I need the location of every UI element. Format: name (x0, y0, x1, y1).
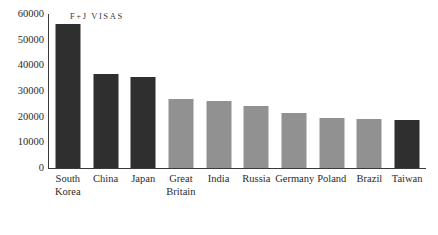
y-axis-tick-label: 10000 (0, 137, 44, 147)
bar[interactable] (319, 118, 344, 168)
y-axis: 6000050000400003000020000100000 (0, 0, 44, 235)
x-axis-tick-label: GreatBritain (162, 172, 200, 198)
bar[interactable] (55, 24, 80, 168)
y-axis-tick-label: 40000 (0, 60, 44, 70)
x-axis-tick-label-line: Korea (49, 185, 87, 198)
bar[interactable] (168, 99, 193, 168)
bar[interactable] (244, 106, 269, 168)
x-axis-tick-label-line: Brazil (351, 172, 389, 185)
bar[interactable] (282, 113, 307, 168)
bar-slot (351, 14, 389, 168)
bar-slot (124, 14, 162, 168)
x-axis-tick-label-line: India (200, 172, 238, 185)
bar-slot (200, 14, 238, 168)
plot-area (49, 14, 426, 168)
x-axis-line (48, 168, 426, 169)
x-axis-tick-label-line: Japan (124, 172, 162, 185)
bar-slot (49, 14, 87, 168)
y-axis-tick-label: 60000 (0, 9, 44, 19)
x-axis-tick-label: India (200, 172, 238, 185)
x-axis-tick-label-line: Taiwan (388, 172, 426, 185)
bar[interactable] (93, 74, 118, 168)
bar-slot (388, 14, 426, 168)
bar[interactable] (206, 101, 231, 168)
x-axis-tick-label: Poland (313, 172, 351, 185)
bar-slot (162, 14, 200, 168)
x-axis-tick-label-line: South (49, 172, 87, 185)
x-axis: SouthKoreaChinaJapanGreatBritainIndiaRus… (49, 172, 426, 222)
x-axis-tick-label-line: Great (162, 172, 200, 185)
x-axis-tick-label-line: Russia (238, 172, 276, 185)
x-axis-tick-label: Germany (275, 172, 313, 185)
bar-slot (313, 14, 351, 168)
bar-slot (87, 14, 125, 168)
x-axis-tick-label-line: Germany (275, 172, 313, 185)
x-axis-tick-label-line: Britain (162, 185, 200, 198)
x-axis-tick-label-line: Poland (313, 172, 351, 185)
bar[interactable] (357, 119, 382, 168)
bar-slot (275, 14, 313, 168)
y-axis-tick-label: 50000 (0, 35, 44, 45)
x-axis-tick-label: China (87, 172, 125, 185)
x-axis-tick-label: Russia (238, 172, 276, 185)
bar[interactable] (395, 120, 420, 168)
y-axis-tick-label: 0 (0, 163, 44, 173)
x-axis-tick-label: Taiwan (388, 172, 426, 185)
x-axis-tick-label: SouthKorea (49, 172, 87, 198)
x-axis-tick-label: Japan (124, 172, 162, 185)
y-axis-tick-label: 20000 (0, 112, 44, 122)
bar-chart: 6000050000400003000020000100000 F+J VISA… (0, 0, 438, 235)
bar-slot (238, 14, 276, 168)
x-axis-tick-label-line: China (87, 172, 125, 185)
bar[interactable] (131, 77, 156, 168)
y-axis-tick-label: 30000 (0, 86, 44, 96)
x-axis-tick-label: Brazil (351, 172, 389, 185)
